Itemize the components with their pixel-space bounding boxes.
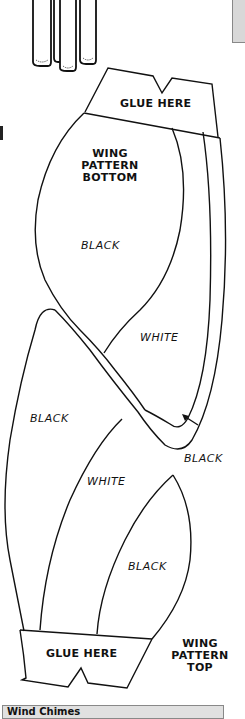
- wing-pattern-top-title: WING PATTERN TOP: [160, 638, 240, 674]
- wind-chime-tubes: [33, 0, 96, 71]
- section-header-bar: Wind Chimes: [2, 705, 224, 719]
- title-line-3: BOTTOM: [70, 172, 150, 184]
- region-label-upper-white: WHITE: [140, 332, 179, 343]
- region-label-lower-black: BLACK: [128, 561, 167, 572]
- bottom-piece-strip-inner: [145, 132, 211, 427]
- section-title: Wind Chimes: [7, 706, 80, 717]
- top-tab-fold-line: [84, 113, 220, 138]
- top-piece-white-divider: [40, 419, 122, 630]
- title-line-3: TOP: [160, 662, 240, 674]
- left-edge-mark: [0, 126, 3, 140]
- top-piece-left-edge: [5, 309, 55, 631]
- region-label-left-black: BLACK: [30, 413, 69, 424]
- region-label-lower-white: WHITE: [87, 476, 126, 487]
- bottom-tab-fold-line: [20, 630, 152, 639]
- region-label-pointer-black: BLACK: [184, 453, 223, 464]
- region-label-upper-black: BLACK: [81, 240, 120, 251]
- wing-pattern-bottom-title: WING PATTERN BOTTOM: [70, 148, 150, 184]
- top-glue-here-label: GLUE HERE: [120, 98, 191, 109]
- top-piece-black-divider: [97, 475, 173, 634]
- chime-tube-1: [33, 0, 51, 66]
- chime-tube-4: [80, 0, 96, 64]
- chime-tube-3: [60, 0, 76, 71]
- top-piece-right-edge: [152, 475, 191, 639]
- bottom-glue-here-label: GLUE HERE: [46, 648, 117, 659]
